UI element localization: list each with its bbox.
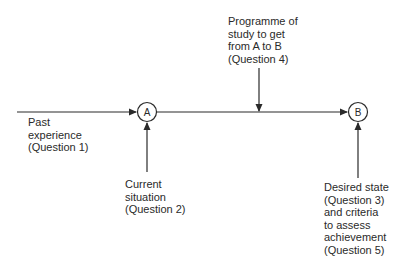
label-line: to assess	[324, 219, 389, 232]
label-line: (Question 3)	[324, 194, 389, 207]
node-a: A	[138, 103, 157, 122]
label-line: experience	[28, 129, 89, 142]
label-line: Programme of	[228, 15, 298, 28]
label-line: (Question 1)	[28, 141, 89, 154]
label-past-experience: Past experience (Question 1)	[28, 116, 89, 154]
label-programme-of-study: Programme of study to get from A to B (Q…	[228, 15, 298, 65]
label-line: (Question 4)	[228, 53, 298, 66]
label-desired-state: Desired state (Question 3) and criteria …	[324, 181, 389, 257]
label-line: and criteria	[324, 206, 389, 219]
label-line: achievement	[324, 231, 389, 244]
label-current-situation: Current situation (Question 2)	[125, 178, 186, 216]
label-line: Past	[28, 116, 89, 129]
label-line: (Question 2)	[125, 203, 186, 216]
label-line: study to get	[228, 28, 298, 41]
label-line: Current	[125, 178, 186, 191]
label-line: Desired state	[324, 181, 389, 194]
node-b: B	[349, 103, 368, 122]
node-b-letter: B	[355, 107, 362, 118]
label-line: from A to B	[228, 40, 298, 53]
node-a-letter: A	[144, 107, 151, 118]
label-line: situation	[125, 191, 186, 204]
label-line: (Question 5)	[324, 244, 389, 257]
